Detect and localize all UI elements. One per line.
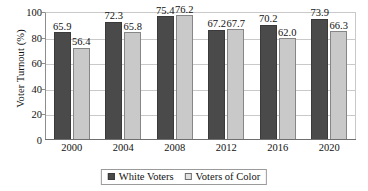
bar-white-voters-2000[interactable]: 65.9 [54,32,71,140]
y-tick-label-0: 0 [16,135,42,146]
bar-white-voters-2008[interactable]: 75.4 [157,16,174,140]
dark-square-swatch-icon [108,173,115,180]
y-tick-label-60: 60 [16,58,42,69]
bar-value-label: 72.3 [105,10,123,22]
bar-white-voters-2012[interactable]: 67.2 [208,30,225,140]
legend-label-voters-of-color: Voters of Color [196,171,261,182]
bar-value-label: 76.2 [175,4,193,16]
bar-white-voters-2016[interactable]: 70.2 [260,25,277,140]
y-axis-ticks: 100 80 60 40 20 0 [12,12,42,140]
x-tick-label-2020: 2020 [304,142,356,158]
bar-group-2000: 65.9 56.4 [46,12,98,140]
bar-group-2004: 72.3 65.8 [98,12,150,140]
legend-item-white-voters[interactable]: White Voters [108,171,174,182]
y-tick-label-80: 80 [16,32,42,43]
bar-value-label: 67.7 [227,18,245,30]
bar-voters-of-color-2012[interactable]: 67.7 [227,29,244,140]
bar-value-label: 65.9 [53,21,71,33]
y-tick-label-100: 100 [16,7,42,18]
bar-value-label: 62.0 [278,27,296,39]
voter-turnout-bar-chart: Voter Turnout (%) 100 80 60 40 20 0 65.9… [0,0,368,191]
legend-label-white-voters: White Voters [119,171,174,182]
bar-white-voters-2020[interactable]: 73.9 [311,19,328,140]
bar-voters-of-color-2000[interactable]: 56.4 [73,48,90,140]
bar-value-label: 75.4 [156,5,174,17]
bar-voters-of-color-2008[interactable]: 76.2 [176,15,193,140]
bar-groups: 65.9 56.4 72.3 65.8 75.4 76.2 67.2 [46,12,355,140]
y-tick-label-20: 20 [16,109,42,120]
chart-legend: White Voters Voters of Color [101,169,267,185]
x-tick-label-2008: 2008 [149,142,201,158]
bar-group-2012: 67.2 67.7 [201,12,253,140]
x-tick-label-2004: 2004 [98,142,150,158]
bar-voters-of-color-2020[interactable]: 66.3 [330,31,347,140]
bar-voters-of-color-2004[interactable]: 65.8 [124,32,141,140]
bar-voters-of-color-2016[interactable]: 62.0 [279,38,296,140]
bar-value-label: 73.9 [311,7,329,19]
bar-value-label: 70.2 [259,13,277,25]
bar-value-label: 65.8 [124,21,142,33]
x-axis-line [45,139,356,140]
x-tick-label-2000: 2000 [46,142,98,158]
bar-value-label: 66.3 [330,20,348,32]
bar-value-label: 56.4 [72,36,90,48]
bar-white-voters-2004[interactable]: 72.3 [105,22,122,140]
bar-value-label: 67.2 [208,18,226,30]
x-axis-labels: 2000 2004 2008 2012 2016 2020 [46,142,355,158]
light-square-swatch-icon [185,173,192,180]
y-tick-label-40: 40 [16,83,42,94]
bar-group-2008: 75.4 76.2 [149,12,201,140]
bar-group-2016: 70.2 62.0 [252,12,304,140]
legend-item-voters-of-color[interactable]: Voters of Color [185,171,261,182]
x-tick-label-2012: 2012 [201,142,253,158]
x-tick-label-2016: 2016 [252,142,304,158]
bar-group-2020: 73.9 66.3 [304,12,356,140]
